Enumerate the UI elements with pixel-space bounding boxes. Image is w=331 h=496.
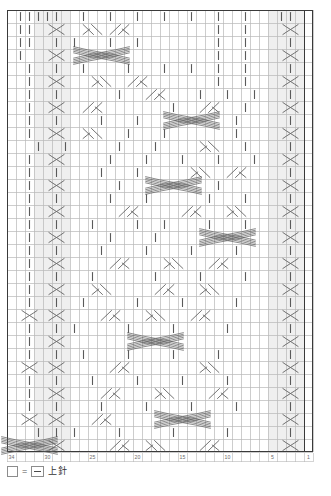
column-tick-label: 15 (180, 454, 186, 460)
column-ruler (7, 453, 313, 462)
twist-stroke-c (83, 29, 90, 35)
twist-stroke-b (92, 129, 102, 139)
empty-cell-swatch (7, 466, 18, 477)
twist-stroke-b (101, 285, 111, 295)
twist-stroke-c (83, 133, 90, 139)
column-tick-label: 30 (45, 454, 51, 460)
right-slant-twist-symbol (182, 207, 201, 217)
twist-stroke-b (155, 311, 165, 321)
legend: = 上針 (7, 466, 67, 477)
twist-stroke-b (200, 168, 210, 178)
twist-stroke-b (209, 363, 219, 373)
right-slant-twist-symbol (110, 259, 129, 269)
left-slant-twist-symbol (146, 311, 165, 321)
left-slant-twist-symbol (83, 129, 102, 139)
twist-stroke-c (212, 107, 219, 113)
twist-stroke-b (164, 389, 174, 399)
left-slant-twist-symbol (200, 363, 219, 373)
twist-stroke-c (113, 315, 120, 321)
twist-stroke-c (122, 263, 129, 269)
twist-stroke-c (113, 393, 120, 399)
column-tick-label: 1 (307, 454, 310, 460)
right-slant-twist-symbol (200, 441, 219, 451)
chart-canvas: 15101520253034 (0, 0, 331, 496)
right-slant-twist-symbol (101, 311, 120, 321)
twist-stroke-c (155, 393, 162, 399)
right-slant-twist-symbol (146, 90, 165, 100)
column-tick-label: 5 (271, 454, 274, 460)
twist-stroke-c (191, 172, 198, 178)
right-slant-twist-symbol (191, 311, 210, 321)
twist-stroke-c (122, 29, 129, 35)
twist-stroke-c (200, 146, 207, 152)
legend-label: 上針 (48, 467, 67, 476)
twist-stroke-c (167, 289, 174, 295)
left-slant-twist-symbol (146, 441, 165, 451)
left-slant-twist-symbol (92, 285, 111, 295)
left-slant-twist-symbol (191, 168, 210, 178)
twist-stroke-c (104, 419, 111, 425)
twist-stroke-c (221, 393, 228, 399)
right-slant-twist-symbol (227, 168, 246, 178)
twist-stroke-c (158, 94, 165, 100)
twist-stroke-c (146, 315, 153, 321)
twist-stroke-c (140, 81, 147, 87)
twist-stroke-c (164, 263, 171, 269)
right-slant-twist-symbol (110, 441, 129, 451)
right-slant-twist-symbol (101, 389, 120, 399)
column-tick-labels: 15101520253034 (9, 454, 310, 460)
column-tick-label: 34 (9, 454, 15, 460)
twist-stroke-b (173, 259, 183, 269)
twist-stroke-c (200, 367, 207, 373)
twist-stroke-b (101, 77, 111, 87)
left-slant-twist-symbol (164, 259, 183, 269)
twist-stroke-c (221, 263, 228, 269)
twist-stroke-c (227, 211, 234, 217)
column-tick-label: 10 (225, 454, 231, 460)
twist-stroke-c (194, 211, 201, 217)
column-tick-label: 25 (90, 454, 96, 460)
right-slant-twist-symbol (110, 25, 129, 35)
right-slant-twist-symbol (155, 285, 174, 295)
left-slant-twist-symbol (200, 285, 219, 295)
column-tick-label: 20 (135, 454, 141, 460)
twist-stroke-b (209, 285, 219, 295)
twist-stroke-c (203, 315, 210, 321)
twist-stroke-c (92, 81, 99, 87)
knitting-chart-root: 15101520253034 = 上針 (0, 0, 331, 496)
purl-symbol-swatch (31, 466, 44, 477)
twist-stroke-c (131, 211, 138, 217)
right-slant-twist-symbol (110, 363, 129, 373)
purl-dash-icon (34, 471, 41, 472)
twist-stroke-b (155, 441, 165, 451)
right-slant-twist-symbol (200, 103, 219, 113)
left-slant-twist-symbol (83, 25, 102, 35)
right-slant-twist-symbol (92, 415, 111, 425)
left-slant-twist-symbol (227, 207, 246, 217)
right-slant-twist-symbol (209, 259, 228, 269)
legend-equals: = (22, 467, 27, 476)
twist-stroke-c (239, 172, 246, 178)
twist-stroke-c (212, 445, 219, 451)
twist-stroke-c (122, 445, 129, 451)
twist-stroke-c (146, 445, 153, 451)
right-slant-twist-symbol (209, 389, 228, 399)
left-slant-twist-symbol (200, 142, 219, 152)
right-slant-twist-symbol (83, 103, 102, 113)
twist-stroke-c (122, 367, 129, 373)
left-slant-twist-symbol (155, 389, 174, 399)
left-slant-twist-symbol (92, 77, 111, 87)
twist-stroke-c (95, 107, 102, 113)
right-slant-twist-symbol (119, 207, 138, 217)
twist-stroke-b (236, 207, 246, 217)
right-slant-twist-symbol (128, 77, 147, 87)
twist-stroke-b (92, 25, 102, 35)
twist-stroke-c (92, 289, 99, 295)
twist-stroke-b (209, 142, 219, 152)
twist-stroke-c (200, 289, 207, 295)
